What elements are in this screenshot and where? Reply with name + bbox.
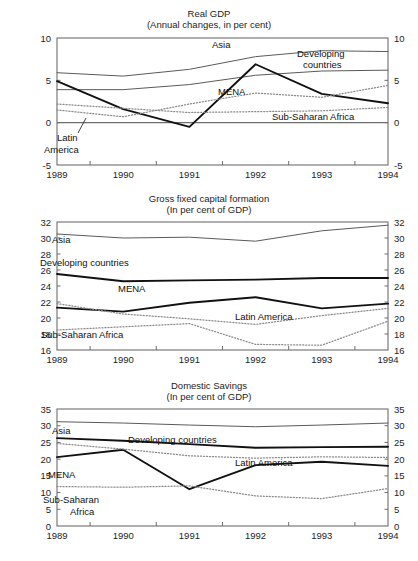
series-line-mena <box>57 450 388 489</box>
y-axis-label-right: 15 <box>394 470 405 481</box>
panel2-plot: 1616181820202222242426262828303032321989… <box>40 217 405 365</box>
y-axis-label-right: 30 <box>394 420 405 431</box>
y-axis-label-right: 0 <box>394 117 399 128</box>
series-annotation-latin: Latin America <box>235 457 293 468</box>
y-axis-label-left: 5 <box>46 75 51 86</box>
y-axis-label-left: 20 <box>40 454 51 465</box>
series-line-asia <box>57 422 388 427</box>
y-axis-label-right: 5 <box>394 75 399 86</box>
series-annotation-latin-l1: Latin <box>57 132 78 143</box>
y-axis-label-right: 24 <box>394 281 405 292</box>
series-annotation-asia: Asia <box>212 39 231 50</box>
x-axis-year-label: 1992 <box>245 169 266 180</box>
x-axis-year-label: 1994 <box>377 169 398 180</box>
y-axis-label-left: 0 <box>46 117 51 128</box>
series-annotation-mena: MENA <box>118 283 146 294</box>
y-axis-label-right: 35 <box>394 404 405 415</box>
x-axis-year-label: 1989 <box>46 530 67 541</box>
x-axis-year-label: 1994 <box>377 530 398 541</box>
x-axis-year-label: 1990 <box>113 530 134 541</box>
x-axis-year-label: 1994 <box>377 354 398 365</box>
y-axis-label-right: 25 <box>394 437 405 448</box>
x-axis-year-label: 1993 <box>311 169 332 180</box>
y-axis-label-right: 18 <box>394 329 405 340</box>
plot-frame <box>57 409 388 526</box>
y-axis-label-left: 30 <box>40 420 51 431</box>
charts-canvas: -5-500551010198919901991199219931994Asia… <box>0 0 418 561</box>
series-line-developing-countries <box>57 438 388 448</box>
series-annotation-mena: MENA <box>48 469 76 480</box>
panel1-plot: -5-500551010198919901991199219931994Asia… <box>40 33 404 180</box>
series-annotation-asia: Asia <box>52 425 71 436</box>
series-annotation-latin: Latin America <box>235 311 293 322</box>
series-line-sub-saharan-africa <box>57 486 388 499</box>
series-annotation-ssa-l2: Africa <box>70 506 95 517</box>
y-axis-label-left: 25 <box>40 437 51 448</box>
series-annotation-asia: Asia <box>52 234 71 245</box>
x-axis-year-label: 1991 <box>179 530 200 541</box>
y-axis-label-right: 20 <box>394 454 405 465</box>
series-annotation-developing: Developing countries <box>40 257 129 268</box>
y-axis-label-left: 35 <box>40 404 51 415</box>
x-axis-year-label: 1991 <box>179 354 200 365</box>
series-line-asia <box>57 225 388 241</box>
x-axis-year-label: 1990 <box>113 169 134 180</box>
series-annotation-ssa-l1: Sub-Saharan <box>43 494 99 505</box>
x-axis-year-label: 1989 <box>46 169 67 180</box>
series-annotation-developing-l2: countries <box>303 59 342 70</box>
y-axis-label-left: 32 <box>40 217 51 228</box>
y-axis-label-right: 28 <box>394 249 405 260</box>
y-axis-label-left: 24 <box>40 281 51 292</box>
x-axis-year-label: 1992 <box>245 354 266 365</box>
x-axis-year-label: 1992 <box>245 530 266 541</box>
y-axis-label-right: 26 <box>394 265 405 276</box>
y-axis-label-right: 32 <box>394 217 405 228</box>
panel3-plot: 0055101015152020252530303535198919901991… <box>40 404 404 541</box>
y-axis-label-left: 5 <box>46 504 51 515</box>
series-line-developing-countries <box>57 274 388 281</box>
series-line-mena <box>57 297 388 311</box>
y-axis-label-right: 10 <box>394 487 405 498</box>
latin-america-leader-line <box>78 118 86 133</box>
y-axis-label-left: 20 <box>40 313 51 324</box>
x-axis-year-label: 1990 <box>113 354 134 365</box>
y-axis-label-left: 22 <box>40 297 51 308</box>
series-annotation-developing-l1: Developing <box>297 48 345 59</box>
y-axis-label-right: 5 <box>394 504 399 515</box>
y-axis-label-right: 30 <box>394 233 405 244</box>
series-annotation-mena: MENA <box>218 86 246 97</box>
series-annotation-latin-l2: America <box>44 144 80 155</box>
x-axis-year-label: 1993 <box>311 354 332 365</box>
series-annotation-ssa: Sub-Saharan Africa <box>41 329 124 340</box>
x-axis-year-label: 1993 <box>311 530 332 541</box>
y-axis-label-right: 10 <box>394 33 405 44</box>
x-axis-year-label: 1991 <box>179 169 200 180</box>
y-axis-label-left: 10 <box>40 33 51 44</box>
y-axis-label-left: 30 <box>40 233 51 244</box>
x-axis-year-label: 1989 <box>46 354 67 365</box>
figure-root: Real GDP (Annual changes, in per cent) G… <box>0 0 418 561</box>
y-axis-label-right: 22 <box>394 297 405 308</box>
series-annotation-ssa: Sub-Saharan Africa <box>272 111 355 122</box>
y-axis-label-right: 20 <box>394 313 405 324</box>
series-annotation-developing: Developing countries <box>128 434 217 445</box>
